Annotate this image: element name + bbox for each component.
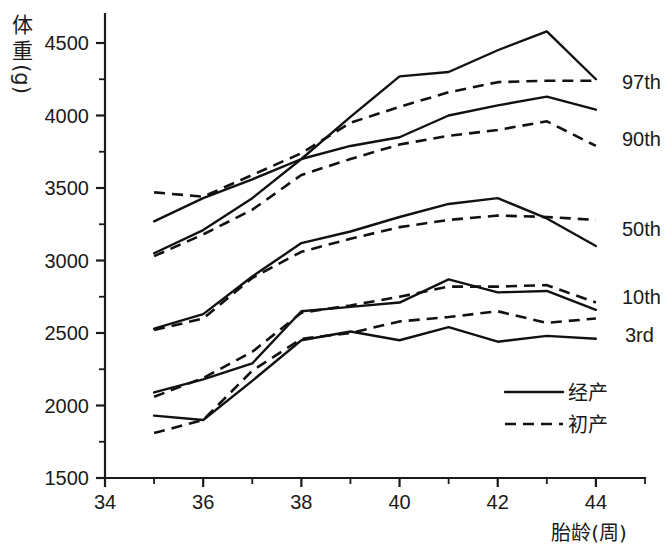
x-tick-label: 40 — [388, 491, 410, 513]
y-axis-title-unit: (g) — [10, 64, 34, 94]
legend-label-multiparous: 经产 — [568, 381, 608, 405]
y-tick-label: 4000 — [45, 105, 90, 127]
growth-percentile-chart: 1500200025003000350040004500 34363840424… — [0, 0, 669, 557]
x-axis-ticks — [105, 478, 645, 487]
y-tick-label: 3500 — [45, 177, 90, 199]
series-line-50th-dashed — [154, 216, 596, 331]
x-axis-tick-labels: 343638404244 — [94, 491, 607, 513]
y-axis-ticks — [96, 43, 105, 478]
y-tick-label: 1500 — [45, 467, 90, 489]
legend: 经产 初产 — [505, 381, 608, 437]
series-line-90th-solid — [154, 97, 596, 254]
percentile-label-10th: 10th — [622, 286, 661, 308]
x-axis-title: 胎龄(周) — [551, 521, 627, 545]
y-tick-label: 2500 — [45, 322, 90, 344]
y-axis-title-char-1: 体 — [12, 13, 33, 37]
y-axis-tick-labels: 1500200025003000350040004500 — [45, 32, 90, 489]
legend-label-primiparous: 初产 — [568, 413, 608, 437]
x-tick-label: 38 — [290, 491, 312, 513]
y-axis-title: 体 重 (g) — [10, 13, 34, 94]
y-axis-title-char-2: 重 — [12, 39, 33, 63]
series-line-3rd-dashed — [154, 311, 596, 433]
percentile-label-3rd: 3rd — [625, 324, 654, 346]
percentile-label-50th: 50th — [622, 218, 661, 240]
x-tick-label: 34 — [94, 491, 116, 513]
y-tick-label: 3000 — [45, 250, 90, 272]
percentile-label-97th: 97th — [622, 71, 661, 93]
x-tick-label: 36 — [192, 491, 214, 513]
x-tick-label: 42 — [487, 491, 509, 513]
y-tick-label: 4500 — [45, 32, 90, 54]
percentile-label-90th: 90th — [622, 128, 661, 150]
series-line-97th-solid — [154, 31, 596, 221]
x-tick-label: 44 — [585, 491, 607, 513]
data-series-group — [154, 31, 596, 433]
y-tick-label: 2000 — [45, 395, 90, 417]
chart-container: 1500200025003000350040004500 34363840424… — [0, 0, 669, 557]
